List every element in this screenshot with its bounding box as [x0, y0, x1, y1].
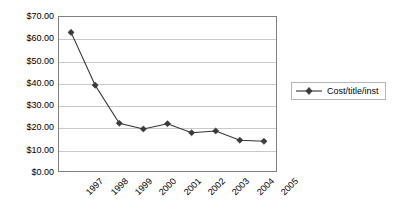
- x-axis: 199719981999200020012002200320042005: [58, 172, 277, 212]
- data-point: [237, 137, 243, 143]
- x-tick-label: 2003: [230, 176, 251, 197]
- line-chart: $0.00$10.00$20.00$30.00$40.00$50.00$60.0…: [0, 0, 394, 212]
- data-point: [164, 121, 170, 127]
- data-point: [213, 128, 219, 134]
- y-tick-label: $50.00: [0, 56, 54, 65]
- legend-marker-icon: [296, 86, 322, 96]
- data-point: [140, 126, 146, 132]
- data-point: [68, 29, 74, 35]
- y-tick-label: $20.00: [0, 123, 54, 132]
- y-tick-label: $10.00: [0, 145, 54, 154]
- legend-label: Cost/title/inst: [327, 86, 379, 96]
- x-tick-label: 1998: [108, 176, 129, 197]
- y-tick-label: $60.00: [0, 34, 54, 43]
- x-tick-label: 2004: [254, 176, 275, 197]
- legend: Cost/title/inst: [291, 82, 386, 100]
- y-tick-label: $0.00: [0, 168, 54, 177]
- y-tick-label: $40.00: [0, 78, 54, 87]
- plot-area: [58, 16, 277, 172]
- series-cost-title-inst: [59, 17, 276, 171]
- x-tick-label: 2000: [157, 176, 178, 197]
- series-markers: [68, 29, 267, 144]
- data-point: [261, 138, 267, 144]
- data-point: [92, 82, 98, 88]
- x-tick-label: 2002: [206, 176, 227, 197]
- x-tick-label: 2005: [279, 176, 300, 197]
- data-point: [116, 120, 122, 126]
- y-tick-label: $70.00: [0, 12, 54, 21]
- y-axis: $0.00$10.00$20.00$30.00$40.00$50.00$60.0…: [0, 16, 54, 172]
- y-tick-label: $30.00: [0, 101, 54, 110]
- x-tick-label: 2001: [181, 176, 202, 197]
- x-tick-label: 1997: [84, 176, 105, 197]
- data-point: [189, 130, 195, 136]
- x-tick-label: 1999: [133, 176, 154, 197]
